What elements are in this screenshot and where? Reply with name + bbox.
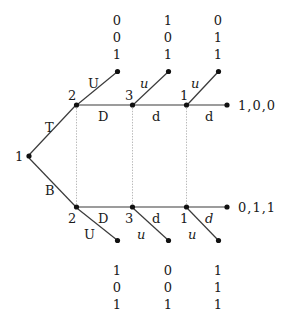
node-bottom-leaf-1 — [115, 238, 120, 243]
branch-label-top: T — [45, 121, 54, 134]
node-top-state-3 — [184, 102, 189, 107]
bottom-state-label-1: 2 — [68, 212, 76, 225]
top-output-word: 1,0,0 — [238, 98, 276, 113]
bottom-bits-3-1: 1 — [210, 279, 226, 296]
top-bits-column-3: 0 1 1 — [210, 12, 226, 63]
top-up-edge-label-2: u — [140, 77, 148, 90]
top-state-label-3: 1 — [180, 89, 188, 102]
bottom-bits-3-2: 1 — [210, 296, 226, 313]
trellis-diagram-canvas: 0 0 1 1 0 1 0 1 1 1 0 1 0 0 1 1 1 1 1 T … — [0, 0, 293, 318]
bottom-down-edge-label-2: u — [137, 228, 145, 241]
node-bottom-leaf-2 — [166, 238, 171, 243]
top-edge-label-1: D — [98, 110, 108, 123]
branch-label-bottom: B — [45, 184, 55, 197]
bottom-bits-1-1: 0 — [109, 279, 125, 296]
top-bits-3-0: 0 — [210, 12, 226, 29]
top-bits-1-1: 0 — [109, 29, 125, 46]
top-state-label-1: 2 — [68, 89, 76, 102]
node-bottom-state-2 — [130, 204, 135, 209]
trellis-graph-svg — [0, 0, 293, 318]
top-bits-2-2: 1 — [160, 46, 176, 63]
top-bits-2-1: 0 — [160, 29, 176, 46]
top-bits-3-1: 1 — [210, 29, 226, 46]
bottom-bits-2-2: 1 — [160, 296, 176, 313]
node-top-state-2 — [130, 102, 135, 107]
top-bits-column-1: 0 0 1 — [109, 12, 125, 63]
node-bottom-state-3 — [184, 204, 189, 209]
node-root — [26, 153, 31, 158]
node-top-terminal — [224, 102, 229, 107]
bottom-bits-column-2: 0 0 1 — [160, 262, 176, 313]
top-up-edge-label-3: u — [191, 77, 199, 90]
node-bottom-terminal — [224, 204, 229, 209]
bottom-bits-3-0: 1 — [210, 262, 226, 279]
top-bits-1-0: 0 — [109, 12, 125, 29]
root-state-label: 1 — [15, 150, 23, 163]
bottom-state-label-2: 3 — [125, 212, 133, 225]
bottom-bits-2-1: 0 — [160, 279, 176, 296]
bottom-edge-label-1: D — [98, 212, 108, 225]
top-state-label-2: 3 — [125, 89, 133, 102]
node-top-leaf-3 — [216, 69, 221, 74]
node-top-leaf-1 — [115, 69, 120, 74]
bottom-edge-label-2: d — [152, 212, 160, 225]
bottom-edge-label-3: d — [205, 212, 213, 225]
top-edge-label-3: d — [205, 110, 213, 123]
top-up-edge-label-1: U — [88, 77, 99, 90]
node-bottom-leaf-3 — [216, 238, 221, 243]
top-bits-3-2: 1 — [210, 46, 226, 63]
top-bits-column-2: 1 0 1 — [160, 12, 176, 63]
bottom-down-edge-label-1: U — [84, 228, 95, 241]
bottom-bits-column-3: 1 1 1 — [210, 262, 226, 313]
bottom-state-label-3: 1 — [180, 212, 188, 225]
bottom-down-edge-label-3: u — [188, 228, 196, 241]
node-bottom-state-1 — [74, 204, 79, 209]
top-bits-2-0: 1 — [160, 12, 176, 29]
node-top-state-1 — [74, 102, 79, 107]
vertical-guides — [77, 108, 187, 204]
bottom-bits-1-0: 1 — [109, 262, 125, 279]
bottom-bits-column-1: 1 0 1 — [109, 262, 125, 313]
node-top-leaf-2 — [166, 69, 171, 74]
top-edge-label-2: d — [152, 110, 160, 123]
top-bits-1-2: 1 — [109, 46, 125, 63]
bottom-output-word: 0,1,1 — [238, 200, 276, 215]
bottom-bits-1-2: 1 — [109, 296, 125, 313]
bottom-bits-2-0: 0 — [160, 262, 176, 279]
